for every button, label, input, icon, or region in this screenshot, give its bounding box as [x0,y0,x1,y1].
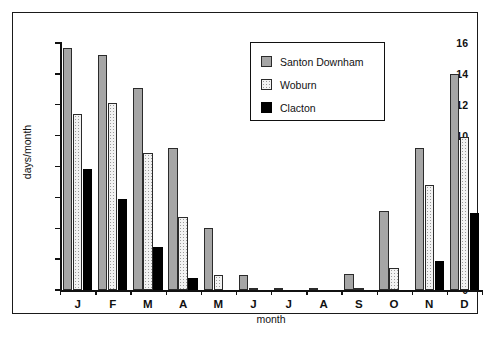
legend-item: Woburn [261,73,384,96]
solid-black-swatch-icon [261,102,272,113]
legend-item: Santon Downham [261,50,384,73]
chart-legend: Santon Downham Woburn Clacton [250,42,385,121]
x-axis-tick [60,290,61,295]
figure-caption [16,327,316,339]
bar [425,185,434,290]
bar [204,228,213,290]
x-axis-tick-label: J [74,298,80,310]
bar [249,288,258,290]
dotted-light-swatch-icon [261,79,272,90]
x-axis-tick [377,290,378,295]
bar [133,88,142,290]
solid-gray-swatch-icon [261,56,272,67]
bar [214,275,223,290]
bar [274,288,283,290]
figure: days/month month 0246810121416 JFMAMJJAS… [0,0,492,339]
bar [379,211,388,290]
x-axis-tick [166,290,167,295]
bar [435,261,444,290]
x-axis-tick [201,290,202,295]
legend-item-label: Woburn [280,79,317,91]
bar [118,199,127,290]
x-axis-tick-label: A [179,298,187,310]
x-axis-tick [95,290,96,295]
bar [178,217,187,290]
bar [143,153,152,290]
bar [63,48,72,290]
figure-frame: days/month month 0246810121416 JFMAMJJAS… [12,12,478,314]
x-axis-tick [271,290,272,295]
bar [344,274,353,290]
bar [460,137,469,290]
bar [108,103,117,290]
x-axis-tick [130,290,131,295]
x-axis-tick-label: N [425,298,433,310]
bar [168,148,177,290]
x-axis-tick-label: F [109,298,116,310]
x-axis-tick [306,290,307,295]
x-axis-tick [341,290,342,295]
legend-item-label: Clacton [280,102,316,114]
x-axis-tick [482,290,483,295]
bar [309,288,318,290]
x-axis-tick-label: M [213,298,223,310]
legend-item-label: Santon Downham [280,56,363,68]
x-axis-tick-label: A [320,298,328,310]
bar [188,278,197,290]
x-axis-tick [236,290,237,295]
x-axis-tick-label: M [143,298,153,310]
bar [83,169,92,290]
bar [470,213,479,290]
bar [354,288,363,290]
bar [415,148,424,290]
bar [73,114,82,290]
legend-item: Clacton [261,96,384,119]
bar [153,247,162,290]
y-axis-title: days/month [21,125,33,179]
bar [450,74,459,290]
x-axis-tick [412,290,413,295]
bar [389,268,398,290]
bar [98,55,107,290]
x-axis-tick-label: D [460,298,468,310]
x-axis-tick [447,290,448,295]
bar [239,275,248,290]
x-axis-title: month [256,313,285,325]
x-axis-tick-label: J [250,298,256,310]
x-axis-tick-label: O [390,298,399,310]
x-axis-tick-label: S [355,298,363,310]
x-axis-tick-label: J [285,298,291,310]
